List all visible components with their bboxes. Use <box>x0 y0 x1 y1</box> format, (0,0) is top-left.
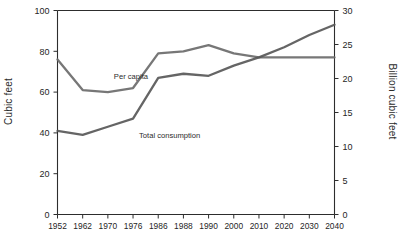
x-axis-tick-label: 2030 <box>300 221 319 231</box>
x-axis-tick-label: 1988 <box>174 221 193 231</box>
series-line-per-capita <box>58 45 335 92</box>
x-axis-tick-label: 1976 <box>124 221 143 231</box>
y-axis-left-tick-label: 40 <box>39 128 49 138</box>
y-axis-left-tick-label: 60 <box>39 87 49 97</box>
x-axis-tick-label: 1970 <box>99 221 118 231</box>
x-axis-tick-label: 2000 <box>224 221 243 231</box>
y-axis-right-tick-label: 10 <box>343 142 353 152</box>
x-axis-tick-label: 1986 <box>149 221 168 231</box>
y-axis-right-tick-label: 30 <box>343 6 353 16</box>
y-axis-left-tick-label: 20 <box>39 169 49 179</box>
y-axis-left-tick-label: 80 <box>39 47 49 57</box>
y-axis-left-tick-label: 0 <box>44 210 49 220</box>
x-axis-tick-label: 2020 <box>275 221 294 231</box>
y-axis-right-tick-label: 25 <box>343 40 353 50</box>
y-axis-right-tick-label: 15 <box>343 108 353 118</box>
x-axis-tick-label: 2040 <box>325 221 344 231</box>
y-axis-right-tick-label: 0 <box>343 210 348 220</box>
series-annotation: Per capita <box>114 72 149 81</box>
x-axis-tick-label: 1990 <box>199 221 218 231</box>
x-axis-tick-label: 1962 <box>73 221 92 231</box>
y-axis-right-tick-label: 20 <box>343 74 353 84</box>
x-axis-tick-label: 2010 <box>250 221 269 231</box>
series-annotation: Total consumption <box>139 131 200 140</box>
y-axis-left-tick-label: 100 <box>34 6 49 16</box>
x-axis-tick-label: 1952 <box>48 221 67 231</box>
y-axis-right-tick-label: 5 <box>343 176 348 186</box>
series-line-total-consumption <box>58 25 335 135</box>
